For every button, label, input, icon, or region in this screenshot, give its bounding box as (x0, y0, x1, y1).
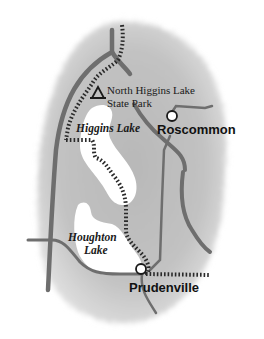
higgins-lake-label: Higgins Lake (75, 122, 140, 135)
roscommon-marker (167, 111, 177, 121)
houghton-label-line1: Houghton (67, 231, 117, 244)
houghton-label-line2: Lake (83, 244, 108, 256)
trail-map: North Higgins Lake State Park Higgins La… (0, 0, 264, 339)
park-label-line1: North Higgins Lake (107, 84, 195, 96)
prudenville-marker (136, 264, 146, 274)
park-label-line2: State Park (107, 97, 152, 109)
prudenville-label: Prudenville (129, 280, 199, 295)
roscommon-label: Roscommon (157, 122, 236, 137)
